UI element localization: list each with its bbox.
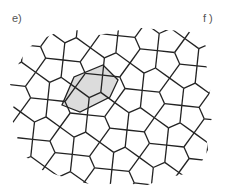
tile-edge [15, 138, 32, 140]
tile-edge [90, 48, 104, 58]
tile-edge [31, 157, 45, 167]
tile-edge [150, 0, 155, 9]
tile-edge [35, 117, 47, 122]
tile-edge [226, 0, 227, 4]
tile-edge [170, 78, 184, 88]
tile-edge [179, 173, 193, 183]
tile-edge [106, 0, 116, 8]
tile-edge [173, 0, 175, 11]
tile-edge [125, 89, 142, 91]
tile-edge [72, 137, 74, 154]
tile-edge [35, 167, 45, 181]
tile-edge [195, 24, 212, 26]
tile-edge [80, 48, 90, 62]
tile-edge [155, 9, 172, 11]
tile-edge [60, 127, 74, 137]
tile-edge [16, 0, 21, 3]
tile-edge [37, 5, 39, 22]
tile-edge [8, 67, 10, 84]
tile-edge [41, 47, 46, 59]
tile-edge [6, 43, 23, 45]
tile-edge [159, 78, 169, 92]
tile-edge [145, 23, 159, 33]
tile-edge [135, 23, 145, 37]
tile-edge [210, 26, 212, 43]
tile-edge [36, 58, 46, 72]
tile-edge [80, 62, 85, 74]
tile-edge [59, 172, 71, 177]
tile-edge [205, 160, 207, 177]
tile-edge [190, 0, 200, 13]
tile-edge [197, 49, 199, 66]
tile-edge [220, 121, 222, 138]
tile-edge [74, 132, 86, 137]
tile-edge [184, 133, 194, 147]
tile-edge [179, 159, 189, 173]
tile-edge [214, 54, 224, 68]
tile-edge [139, 157, 153, 167]
tile-edge [193, 178, 205, 183]
tile-edge [157, 34, 159, 51]
tile-edge [222, 121, 227, 123]
tile-edge [124, 183, 134, 191]
tile-edge [204, 119, 221, 121]
tile-edge [224, 54, 226, 64]
tile-edge [46, 58, 63, 60]
tile-edge [33, 122, 35, 139]
tile-edge [112, 170, 129, 172]
tile-edge [131, 13, 145, 23]
tile-edge [195, 66, 197, 83]
tile-edge [116, 36, 118, 53]
tile-edge [142, 73, 144, 90]
tile-edge [57, 177, 59, 191]
tile-edge [10, 62, 22, 67]
tile-edge [37, 23, 51, 33]
tile-edge [210, 44, 224, 54]
tile-edge [165, 145, 167, 162]
tile-edge [224, 40, 226, 54]
tile-edge [159, 28, 171, 33]
tile-edge [135, 37, 140, 49]
tile-edge [130, 49, 140, 63]
tile-edge [6, 102, 20, 112]
tile-edge [226, 4, 227, 14]
tile-edge [5, 138, 15, 152]
tile-edge [70, 154, 72, 171]
tile-edge [120, 77, 125, 89]
tile-edge [95, 22, 100, 34]
tile-edge [125, 147, 139, 157]
tile-edge [208, 188, 218, 191]
tile-edge [90, 142, 100, 156]
tile-edge [156, 51, 158, 68]
tile-edge [36, 72, 50, 82]
tile-edge [144, 68, 156, 73]
tile-edge [45, 167, 59, 177]
tile-edge [114, 147, 126, 152]
tile-edge [197, 66, 214, 68]
tile-edge [144, 132, 149, 144]
tile-edge [170, 64, 180, 78]
tile-edge [127, 113, 129, 130]
tile-edge [125, 130, 127, 147]
tile-edge [80, 0, 92, 3]
tile-edge [87, 115, 104, 117]
tile-edge [51, 33, 65, 43]
tile-edge [115, 103, 129, 113]
tile-edge [61, 60, 63, 77]
tile-edge [23, 45, 40, 47]
pentagonal-tiling-diagram [0, 0, 226, 191]
tile-edge [0, 43, 6, 57]
tile-edge [0, 177, 17, 179]
tile-edge [10, 126, 15, 138]
tile-edge [100, 128, 110, 142]
tile-edge [212, 9, 214, 26]
tile-edge [0, 141, 5, 151]
tile-edge [1, 18, 11, 32]
tile-edge [46, 117, 60, 127]
tile-edge [208, 138, 220, 143]
tile-edge [61, 19, 78, 21]
tile-edge [131, 0, 133, 13]
tile-edge [129, 157, 139, 171]
tile-edge [182, 88, 184, 105]
tile-edge [129, 171, 134, 183]
